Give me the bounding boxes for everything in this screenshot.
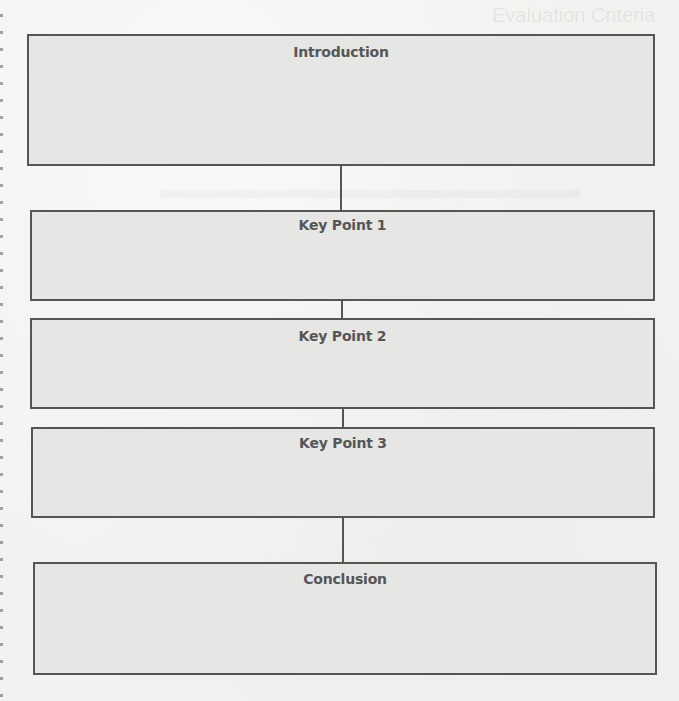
key-point-2-box: Key Point 2: [30, 318, 655, 409]
connector-intro-to-kp1: [340, 165, 342, 210]
binding-edge: [0, 0, 3, 701]
conclusion-heading: Conclusion: [35, 571, 655, 587]
key-point-1-box: Key Point 1: [30, 210, 655, 301]
conclusion-box: Conclusion: [33, 562, 657, 675]
connector-kp3-to-conclusion: [342, 516, 344, 563]
introduction-box: Introduction: [27, 34, 655, 166]
key-point-2-heading: Key Point 2: [32, 328, 653, 344]
introduction-heading: Introduction: [29, 44, 653, 60]
key-point-1-heading: Key Point 1: [32, 217, 653, 233]
key-point-3-heading: Key Point 3: [33, 435, 653, 451]
connector-kp1-to-kp2: [341, 299, 343, 318]
key-point-3-box: Key Point 3: [31, 427, 655, 518]
connector-kp2-to-kp3: [342, 407, 344, 427]
